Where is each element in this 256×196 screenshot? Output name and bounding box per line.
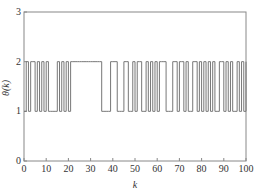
x-tick-label: 0 — [22, 163, 27, 174]
y-axis-ticks: 0123 — [16, 6, 27, 166]
y-tick-label: 0 — [16, 155, 21, 166]
x-tick-label: 50 — [130, 163, 140, 174]
theta-series-line — [24, 62, 246, 112]
x-tick-label: 30 — [86, 163, 96, 174]
x-tick-label: 40 — [108, 163, 118, 174]
y-axis-label: θ(k) — [0, 79, 12, 96]
x-axis-ticks: 0102030405060708090100 — [22, 158, 254, 174]
x-axis-label: k — [133, 179, 138, 190]
y-tick-label: 3 — [16, 6, 21, 17]
y-tick-label: 1 — [16, 105, 21, 116]
x-tick-label: 60 — [152, 163, 162, 174]
x-tick-label: 90 — [219, 163, 229, 174]
x-tick-label: 100 — [239, 163, 254, 174]
step-chart: 0123 0102030405060708090100 k θ(k) — [0, 0, 256, 196]
x-tick-label: 70 — [174, 163, 184, 174]
x-tick-label: 20 — [63, 163, 73, 174]
x-tick-label: 80 — [197, 163, 207, 174]
x-tick-label: 10 — [41, 163, 51, 174]
y-tick-label: 2 — [16, 56, 21, 67]
